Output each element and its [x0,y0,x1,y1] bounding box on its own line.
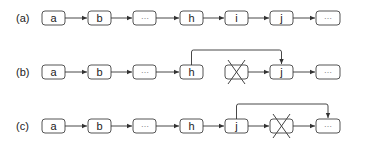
node-b: b [88,65,111,79]
svg-text:b: b [96,12,102,24]
row-label: (c) [16,120,29,132]
node-h: h [180,65,203,79]
svg-text:j: j [279,12,282,24]
svg-text:b: b [96,120,102,132]
node-ellipsis-end: ⋯ [316,65,340,79]
svg-text:j: j [234,120,237,132]
svg-text:i: i [235,12,237,24]
node-ellipsis-end: ⋯ [316,11,340,25]
bypass-arrow [192,50,282,65]
node-a: a [42,11,65,25]
node-a: a [42,65,65,79]
row-a: (a) a b ⋯ h i j [16,11,340,25]
node-ellipsis-end: ⋯ [316,119,340,133]
svg-text:⋯: ⋯ [141,68,149,77]
node-h: h [180,11,203,25]
svg-text:⋯: ⋯ [141,122,149,131]
svg-text:h: h [188,12,194,24]
svg-text:b: b [96,66,102,78]
svg-text:j: j [279,66,282,78]
node-b: b [88,119,111,133]
svg-text:⋯: ⋯ [324,14,332,23]
linked-list-diagram: (a) a b ⋯ h i j [0,0,367,147]
node-removed [225,60,248,84]
node-j: j [270,65,293,79]
row-b: (b) a b ⋯ h j [16,50,340,84]
svg-text:h: h [188,66,194,78]
node-j: j [225,119,248,133]
svg-text:a: a [50,120,57,132]
svg-text:a: a [50,66,57,78]
svg-text:⋯: ⋯ [324,122,332,131]
node-a: a [42,119,65,133]
node-b: b [88,11,111,25]
svg-text:⋯: ⋯ [141,14,149,23]
bypass-arrow [237,104,329,119]
row-label: (a) [16,12,29,24]
node-removed [270,114,293,138]
svg-text:h: h [188,120,194,132]
node-j: j [270,11,293,25]
node-ellipsis: ⋯ [133,11,156,25]
node-h: h [180,119,203,133]
node-i: i [225,11,248,25]
row-c: (c) a b ⋯ h j [16,104,340,138]
node-ellipsis: ⋯ [133,119,156,133]
svg-text:⋯: ⋯ [324,68,332,77]
row-label: (b) [16,66,29,78]
svg-text:a: a [50,12,57,24]
node-ellipsis: ⋯ [133,65,156,79]
